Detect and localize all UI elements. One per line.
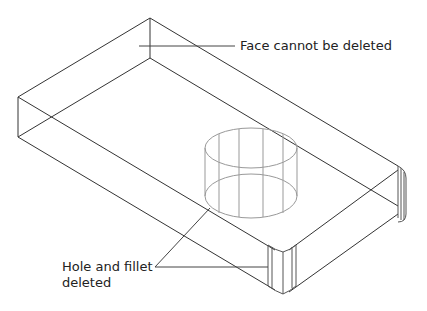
right-fillet (398, 166, 406, 222)
front-fillet (268, 245, 296, 294)
hole-annotation-label: Hole and fillet deleted (62, 259, 153, 291)
hole-leader-diagonal (155, 208, 210, 267)
cylinder-hole (205, 128, 297, 218)
hole-annotation-line-1: Hole and fillet (62, 259, 153, 275)
hole-annotation-line-2: deleted (62, 275, 153, 291)
face-annotation-label: Face cannot be deleted (240, 38, 392, 54)
